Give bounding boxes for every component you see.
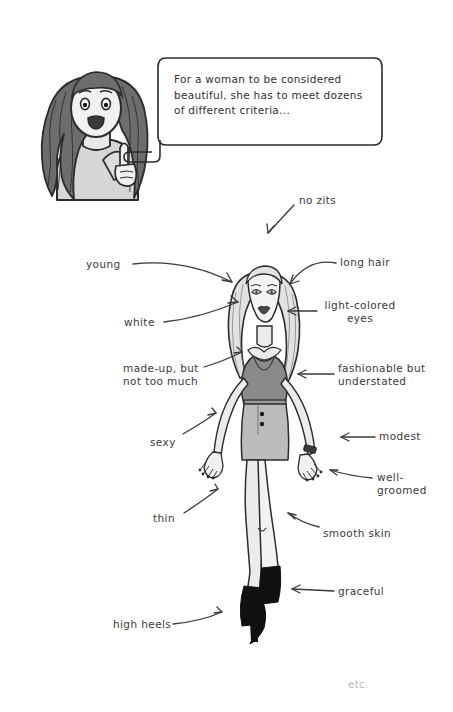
annotation-label-made-up: made-up, but not too much <box>123 362 199 388</box>
annotation-label-young: young <box>86 258 121 271</box>
woman-pupil-right <box>270 290 273 293</box>
annotation-label-thin: thin <box>153 512 175 525</box>
annotation-label-sexy: sexy <box>150 436 176 449</box>
annotation-label-high-heels: high heels <box>113 618 171 631</box>
woman-neck <box>257 326 272 347</box>
speaker-mouth <box>88 116 104 129</box>
woman-bustier-top <box>241 356 287 404</box>
speaker-character <box>42 72 148 200</box>
annotation-label-smooth-skin: smooth skin <box>323 527 391 540</box>
footer-etc-note: etc. <box>348 679 369 690</box>
woman-boot-left <box>240 586 262 626</box>
annotation-label-light-eyes: light-colored eyes <box>321 299 399 325</box>
annotation-label-long-hair: long hair <box>340 256 390 269</box>
woman-skirt-button-top <box>260 412 264 416</box>
woman-skirt-button-bottom <box>260 422 264 426</box>
annotation-label-modest: modest <box>379 430 421 443</box>
annotation-label-graceful: graceful <box>338 585 384 598</box>
speaker-fist <box>115 164 136 186</box>
annotation-label-well-groomed: well- groomed <box>377 471 427 497</box>
woman-heel-left <box>250 622 258 642</box>
annotation-label-fashionable: fashionable but understated <box>338 362 426 388</box>
annotation-label-no-zits: no zits <box>299 194 336 207</box>
speaker-pupil-left <box>83 103 87 107</box>
woman-skirt <box>241 404 288 460</box>
speaker-pupil-right <box>104 103 108 107</box>
annotation-label-white: white <box>124 316 155 329</box>
woman-pupil-left <box>255 290 258 293</box>
speech-bubble-text: For a woman to be considered beautiful, … <box>174 72 374 119</box>
